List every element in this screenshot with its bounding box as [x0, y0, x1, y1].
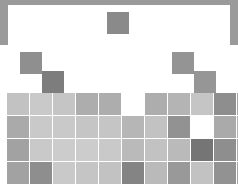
heatmap-cell — [107, 12, 129, 34]
heatmap-cell — [122, 162, 144, 184]
heatmap-cell — [194, 71, 216, 93]
heatmap-cell — [99, 93, 121, 115]
heatmap-cell — [30, 139, 52, 161]
heatmap-cell — [30, 116, 52, 138]
heatmap-figure — [0, 0, 238, 185]
heatmap-cell — [214, 93, 236, 115]
heatmap-cell — [7, 93, 29, 115]
heatmap-cell — [168, 162, 190, 184]
heatmap-cell — [214, 162, 236, 184]
heatmap-cell — [53, 162, 75, 184]
heatmap-cell — [30, 93, 52, 115]
heatmap-cell — [168, 93, 190, 115]
heatmap-cell — [99, 116, 121, 138]
heatmap-cell — [145, 139, 167, 161]
heatmap-plot-area — [0, 0, 238, 185]
heatmap-cell — [53, 139, 75, 161]
heatmap-cell — [122, 116, 144, 138]
heatmap-cell — [7, 116, 29, 138]
heatmap-cell — [99, 162, 121, 184]
heatmap-cell — [42, 71, 64, 93]
heatmap-cell — [191, 139, 213, 161]
heatmap-cell — [237, 93, 238, 115]
heatmap-cell — [76, 139, 98, 161]
heatmap-cell — [20, 52, 42, 74]
heatmap-cell — [7, 139, 29, 161]
heatmap-cell — [191, 93, 213, 115]
heatmap-cell — [122, 139, 144, 161]
heatmap-cell — [145, 162, 167, 184]
heatmap-cell — [168, 139, 190, 161]
heatmap-cell — [214, 139, 236, 161]
heatmap-cell — [99, 139, 121, 161]
heatmap-cell — [214, 116, 236, 138]
heatmap-cell — [53, 116, 75, 138]
heatmap-cell — [76, 116, 98, 138]
heatmap-cell — [172, 52, 194, 74]
heatmap-cell — [7, 162, 29, 184]
heatmap-cell — [76, 162, 98, 184]
heatmap-cell — [237, 139, 238, 161]
heatmap-cell — [145, 116, 167, 138]
heatmap-cell — [237, 116, 238, 138]
heatmap-cell — [237, 162, 238, 184]
heatmap-cell — [76, 93, 98, 115]
heatmap-cell — [145, 93, 167, 115]
heatmap-cell — [53, 93, 75, 115]
heatmap-cell — [30, 162, 52, 184]
heatmap-cell — [168, 116, 190, 138]
heatmap-cell — [191, 162, 213, 184]
